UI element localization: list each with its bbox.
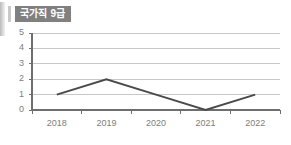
x-axis-tick-label: 2020 bbox=[136, 119, 176, 128]
chart-panel: 국가직 9급 012345 20182019202020212022 bbox=[0, 0, 291, 145]
y-axis-tick-label: 1 bbox=[10, 90, 24, 99]
y-axis-tick-label: 5 bbox=[10, 28, 24, 37]
x-axis-tick-label: 2022 bbox=[235, 119, 275, 128]
x-axis-tick-label: 2019 bbox=[86, 119, 126, 128]
x-axis-tick-label: 2018 bbox=[37, 119, 77, 128]
y-axis-tick-label: 0 bbox=[10, 105, 24, 114]
y-axis-tick-label: 3 bbox=[10, 59, 24, 68]
y-axis-tick-label: 4 bbox=[10, 43, 24, 52]
x-axis-tick-label: 2021 bbox=[186, 119, 226, 128]
y-axis-tick-label: 2 bbox=[10, 74, 24, 83]
